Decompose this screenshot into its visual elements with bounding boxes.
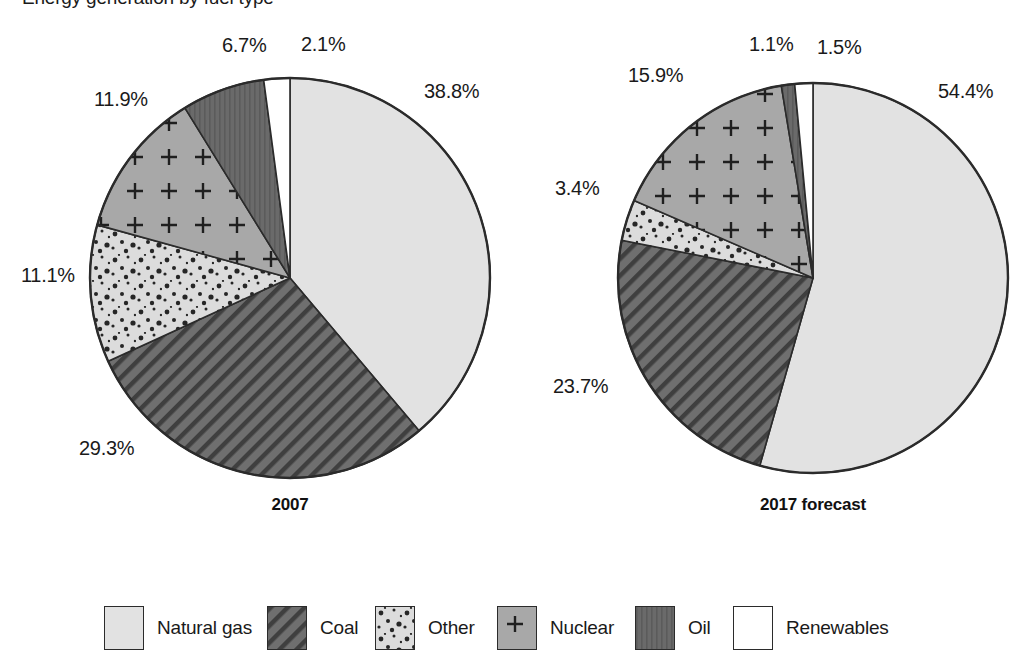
pct-label-oil-1: 6.7%: [222, 34, 266, 57]
pct-label-natural-gas-2: 54.4%: [938, 80, 993, 103]
legend-item-oil[interactable]: Oil: [635, 604, 711, 652]
chart-legend: Natural gasCoalOtherNuclearOilRenewables: [0, 604, 1014, 660]
legend-item-other[interactable]: Other: [375, 604, 475, 652]
legend-swatch-natural-gas-icon: [104, 606, 144, 650]
pct-label-nuclear-2: 15.9%: [628, 64, 683, 87]
pie-chart-1: [84, 72, 496, 484]
legend-swatch-oil-icon: [635, 606, 675, 650]
legend-label-renewables: Renewables: [786, 617, 889, 639]
legend-item-renewables[interactable]: Renewables: [733, 604, 889, 652]
pie-caption-1: 2007: [240, 495, 340, 515]
legend-item-nuclear[interactable]: Nuclear: [497, 604, 614, 652]
pct-label-natural-gas-1: 38.8%: [424, 80, 479, 103]
legend-swatch-coal-icon: [267, 606, 307, 650]
legend-label-nuclear: Nuclear: [550, 617, 614, 639]
pct-label-coal-1: 29.3%: [79, 437, 134, 460]
pct-label-other-2: 3.4%: [555, 177, 599, 200]
legend-swatch-other-icon: [375, 606, 415, 650]
legend-swatch-renewables-icon: [733, 606, 773, 650]
legend-swatch-nuclear-icon: [497, 606, 537, 650]
pct-label-renewables-2: 1.5%: [817, 36, 861, 59]
pct-label-oil-2: 1.1%: [749, 33, 793, 56]
legend-label-coal: Coal: [320, 617, 358, 639]
legend-item-natural-gas[interactable]: Natural gas: [104, 604, 252, 652]
pie-svg: [612, 77, 1014, 479]
legend-label-natural-gas: Natural gas: [157, 617, 252, 639]
pct-label-coal-2: 23.7%: [553, 375, 608, 398]
legend-label-other: Other: [428, 617, 475, 639]
chart-root: Energy generation by fuel type 38.8%29.3…: [0, 0, 1014, 664]
pie-caption-2: 2017 forecast: [738, 495, 888, 515]
legend-label-oil: Oil: [688, 617, 711, 639]
chart-title: Energy generation by fuel type: [22, 0, 274, 9]
legend-item-coal[interactable]: Coal: [267, 604, 358, 652]
pct-label-nuclear-1: 11.9%: [94, 88, 148, 111]
pct-label-renewables-1: 2.1%: [301, 33, 345, 56]
pct-label-other-1: 11.1%: [21, 264, 75, 287]
pie-svg: [84, 72, 496, 484]
pie-chart-2: [612, 77, 1014, 479]
